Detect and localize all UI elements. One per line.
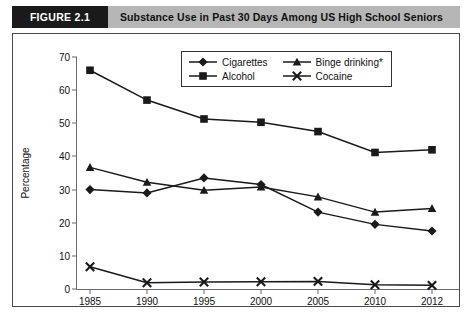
x-tick-mark-2005 [318, 289, 319, 294]
x-tick-label-2000: 2000 [250, 296, 272, 307]
legend-item-binge-drinking: Binge drinking* [282, 56, 383, 68]
legend-marker-square-icon [188, 70, 218, 82]
figure-title: Substance Use in Past 30 Days Among US H… [108, 6, 460, 28]
legend-label: Cigarettes [222, 57, 268, 68]
x-tick-label-1995: 1995 [193, 296, 215, 307]
legend-label: Alcohol [222, 71, 255, 82]
plot-area: 010203040506070 198519901995200020052010… [77, 57, 448, 289]
figure-panel: FIGURE 2.1 Substance Use in Past 30 Days… [0, 0, 473, 316]
y-axis-label: Percentage [20, 147, 31, 198]
figure-header: FIGURE 2.1 Substance Use in Past 30 Days… [12, 6, 460, 28]
x-tick-mark-2000 [261, 289, 262, 294]
x-tick-label-2012: 2012 [421, 296, 443, 307]
x-tick-mark-2012 [432, 289, 433, 294]
x-tick-mark-2010 [375, 289, 376, 294]
legend-label: Cocaine [316, 71, 353, 82]
x-tick-label-1990: 1990 [136, 296, 158, 307]
legend-marker-triangle-icon [282, 56, 312, 68]
x-tick-mark-1985 [90, 289, 91, 294]
figure-number-tag: FIGURE 2.1 [12, 6, 108, 28]
x-tick-mark-1990 [147, 289, 148, 294]
series-binge-drinking [86, 163, 437, 216]
x-tick-label-2010: 2010 [364, 296, 386, 307]
legend-item-cigarettes: Cigarettes [188, 56, 268, 68]
chart-legend: CigarettesBinge drinking*AlcoholCocaine [181, 51, 392, 87]
x-tick-label-1985: 1985 [79, 296, 101, 307]
legend-marker-diamond-icon [188, 56, 218, 68]
data-series-layer [77, 57, 448, 289]
legend-marker-cross-icon [282, 70, 312, 82]
x-tick-label-2005: 2005 [307, 296, 329, 307]
x-tick-mark-1995 [204, 289, 205, 294]
legend-item-cocaine: Cocaine [282, 70, 383, 82]
x-axis-line [76, 289, 459, 290]
legend-item-alcohol: Alcohol [188, 70, 268, 82]
series-cocaine [86, 263, 436, 290]
legend-label: Binge drinking* [316, 57, 383, 68]
chart-frame: Percentage Years 010203040506070 1985199… [12, 33, 460, 307]
